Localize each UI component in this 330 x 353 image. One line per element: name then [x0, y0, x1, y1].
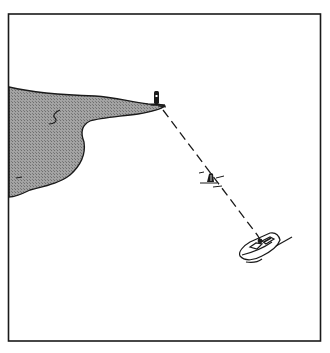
illustration-canvas [0, 0, 330, 353]
